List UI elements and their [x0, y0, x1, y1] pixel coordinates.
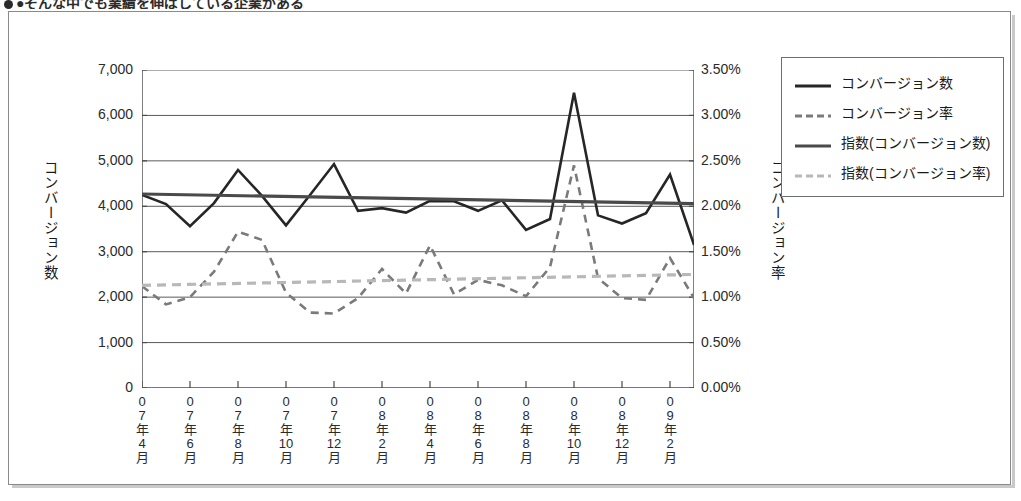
x-axis-tick-label-line: 年	[275, 423, 297, 437]
x-axis-tick-label: 08年10月	[563, 395, 585, 465]
dashed-line-icon	[794, 107, 832, 117]
x-axis-tick-label-line: 年	[371, 423, 393, 437]
legend-item[interactable]: 指数(コンバージョン数)	[782, 127, 1003, 157]
x-axis-tick-label: 07年6月	[179, 395, 201, 465]
x-axis-tick-label-line: 8	[563, 409, 585, 423]
x-axis-tick-label-line: 月	[323, 451, 345, 465]
x-axis-tick-label: 09年2月	[659, 395, 681, 465]
x-axis-tick-label-line: 0	[275, 395, 297, 409]
x-axis-tick-label-line: 0	[323, 395, 345, 409]
x-axis-tick-label-line: 年	[611, 423, 633, 437]
y2-axis-tick-label: 0.50%	[701, 334, 763, 350]
page-heading: ●そんな中でも業績を伸ばしている企業がある	[0, 0, 1021, 9]
x-axis-tick-label-line: 12	[611, 437, 633, 451]
x-axis-tick-label-line: 月	[563, 451, 585, 465]
x-axis-tick-label-line: 年	[515, 423, 537, 437]
x-axis-tick-label-line: 8	[515, 409, 537, 423]
x-axis-tick-label-line: 0	[179, 395, 201, 409]
x-axis-tick-label-line: 月	[227, 451, 249, 465]
x-axis-tick-label: 08年8月	[515, 395, 537, 465]
x-axis-tick-label-line: 8	[611, 409, 633, 423]
x-axis-tick-label: 07年8月	[227, 395, 249, 465]
x-axis-tick-label-line: 年	[323, 423, 345, 437]
y-axis-tick-label: 1,000	[71, 334, 133, 350]
x-axis-tick-label-line: 8	[515, 437, 537, 451]
x-axis-tick-label-line: 0	[467, 395, 489, 409]
y2-axis-tick-label: 2.50%	[701, 152, 763, 168]
x-axis-tick-label-line: 0	[515, 395, 537, 409]
x-axis-tick-label-line: 月	[611, 451, 633, 465]
x-axis-tick-label-line: 0	[563, 395, 585, 409]
x-axis-tick-label-line: 年	[227, 423, 249, 437]
y-axis-tick-label: 6,000	[71, 106, 133, 122]
x-axis-tick-label-line: 年	[419, 423, 441, 437]
x-axis-tick-label-line: 0	[419, 395, 441, 409]
legend-item[interactable]: 指数(コンバージョン率)	[782, 157, 1003, 187]
x-axis-tick-labels: 07年4月07年6月07年8月07年10月07年12月08年2月08年4月08年…	[142, 395, 694, 485]
x-axis-tick-label-line: 年	[467, 423, 489, 437]
x-axis-tick-label-line: 2	[371, 437, 393, 451]
x-axis-tick-label: 08年12月	[611, 395, 633, 465]
x-axis-tick-label-line: 月	[131, 451, 153, 465]
solid-line-icon	[794, 77, 832, 87]
x-axis-tick-label-line: 12	[323, 437, 345, 451]
trendline-rate	[142, 274, 694, 285]
x-axis-tick-label-line: 0	[131, 395, 153, 409]
legend-item-label: コンバージョン率	[841, 102, 953, 122]
chart-legend: コンバージョン数コンバージョン率指数(コンバージョン数)指数(コンバージョン率)	[781, 57, 1004, 197]
x-axis-tick-label-line: 10	[275, 437, 297, 451]
x-axis-tick-label: 07年12月	[323, 395, 345, 465]
x-axis-tick-label-line: 10	[563, 437, 585, 451]
x-axis-tick-label-line: 月	[467, 451, 489, 465]
x-axis-tick-label: 07年4月	[131, 395, 153, 465]
frame-shadow-bottom	[12, 485, 1015, 488]
heading-label: ●そんな中でも業績を伸ばしている企業がある	[16, 0, 304, 9]
x-axis-tick-label-line: 0	[659, 395, 681, 409]
x-axis-tick-label-line: 月	[371, 451, 393, 465]
x-axis-tick-label-line: 月	[179, 451, 201, 465]
y2-axis-tick-label: 1.00%	[701, 288, 763, 304]
x-axis-tick-label-line: 8	[371, 409, 393, 423]
legend-item[interactable]: コンバージョン率	[782, 97, 1003, 127]
x-axis-tick-label-line: 6	[467, 437, 489, 451]
solid-line-icon	[794, 137, 832, 147]
x-axis-tick-label-line: 年	[179, 423, 201, 437]
y-axis-tick-label: 7,000	[71, 61, 133, 77]
plot-area	[142, 70, 694, 388]
x-axis-tick-label-line: 0	[227, 395, 249, 409]
x-axis-tick-label-line: 年	[131, 423, 153, 437]
chart-canvas	[142, 70, 694, 388]
x-axis-tick-label-line: 月	[515, 451, 537, 465]
chart-figure: コンバージョン数 コンバージョン率 01,0002,0003,0004,0005…	[8, 11, 1011, 485]
y2-axis-tick-label: 2.00%	[701, 197, 763, 213]
legend-item-label: 指数(コンバージョン数)	[841, 132, 990, 152]
x-axis-tick-label-line: 7	[227, 409, 249, 423]
x-axis-tick-label-line: 月	[659, 451, 681, 465]
x-axis-tick-label-line: 0	[611, 395, 633, 409]
y2-axis-tick-label: 1.50%	[701, 243, 763, 259]
x-axis-tick-label-line: 4	[419, 437, 441, 451]
dashed-line-icon	[794, 167, 832, 177]
x-axis-tick-label-line: 7	[323, 409, 345, 423]
y2-axis-tick-label: 3.50%	[701, 61, 763, 77]
x-axis-tick-label-line: 0	[371, 395, 393, 409]
x-axis-tick-label: 08年2月	[371, 395, 393, 465]
trendline-count	[142, 194, 694, 204]
x-axis-tick-label-line: 7	[179, 409, 201, 423]
x-axis-tick-label-line: 年	[659, 423, 681, 437]
x-axis-tick-label-line: 月	[275, 451, 297, 465]
legend-item-label: 指数(コンバージョン率)	[841, 162, 990, 182]
legend-item[interactable]: コンバージョン数	[782, 67, 1003, 97]
y-axis-tick-label: 5,000	[71, 152, 133, 168]
x-axis-tick-label-line: 8	[227, 437, 249, 451]
y2-axis-tick-label: 3.00%	[701, 106, 763, 122]
x-axis-tick-label-line: 6	[179, 437, 201, 451]
y-axis-tick-label: 3,000	[71, 243, 133, 259]
y-axis-tick-label: 2,000	[71, 288, 133, 304]
y-axis-tick-label: 4,000	[71, 197, 133, 213]
x-axis-tick-label-line: 8	[419, 409, 441, 423]
x-axis-tick-label-line: 7	[131, 409, 153, 423]
x-axis-tick-label: 07年10月	[275, 395, 297, 465]
y2-axis-tick-label: 0.00%	[701, 379, 763, 395]
y-axis-left-title: コンバージョン数	[39, 160, 60, 280]
